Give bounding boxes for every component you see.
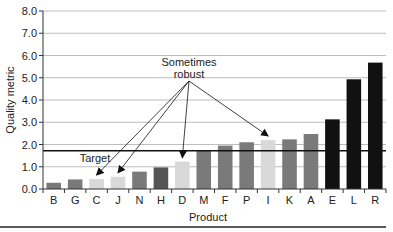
y-axis-label: Quality metric — [4, 66, 16, 134]
target-label: Target — [80, 152, 111, 164]
bar-M — [196, 151, 211, 189]
bar-J — [111, 177, 126, 189]
annotation-arrow-J — [118, 81, 189, 173]
annotation-line-2: robust — [174, 68, 205, 80]
x-tick-label: P — [243, 194, 250, 206]
bar-C — [89, 179, 104, 189]
y-tick-label: 8.0 — [22, 5, 37, 17]
bar-I — [261, 140, 276, 189]
x-tick-label: C — [93, 194, 101, 206]
x-tick-label: G — [71, 194, 80, 206]
y-tick-label: 2.0 — [22, 139, 37, 151]
annotation-arrow-D — [182, 81, 189, 158]
x-tick-label: L — [351, 194, 357, 206]
bar-E — [325, 119, 340, 189]
y-tick-label: 0.0 — [22, 183, 37, 195]
bar-K — [282, 139, 297, 189]
x-axis-label: Product — [189, 211, 227, 223]
bar-R — [368, 63, 383, 189]
bar-A — [304, 134, 319, 189]
x-tick-label: F — [222, 194, 229, 206]
bar-F — [218, 146, 233, 189]
y-tick-label: 1.0 — [22, 161, 37, 173]
y-tick-label: 5.0 — [22, 72, 37, 84]
x-tick-label: D — [178, 194, 186, 206]
bar-H — [154, 167, 169, 189]
y-tick-label: 6.0 — [22, 50, 37, 62]
x-tick-label: H — [157, 194, 165, 206]
bar-chart: Target 0.01.02.03.04.05.06.07.08.0BGCJNH… — [0, 0, 393, 232]
y-tick-label: 4.0 — [22, 94, 37, 106]
bar-G — [68, 179, 83, 189]
y-tick-label: 3.0 — [22, 116, 37, 128]
x-tick-label: R — [371, 194, 379, 206]
x-tick-label: N — [135, 194, 143, 206]
annotation-arrow-C — [97, 81, 189, 175]
x-tick-label: M — [199, 194, 208, 206]
y-tick-label: 7.0 — [22, 27, 37, 39]
annotation-arrow-I — [189, 81, 268, 136]
bars — [46, 63, 382, 189]
x-tick-label: B — [50, 194, 57, 206]
bar-D — [175, 162, 190, 189]
annotation-line-1: Sometimes — [161, 56, 217, 68]
bar-N — [132, 172, 147, 189]
bar-L — [347, 79, 362, 189]
bar-B — [46, 183, 61, 189]
x-tick-label: I — [267, 194, 270, 206]
x-tick-label: J — [115, 194, 121, 206]
x-tick-label: K — [286, 194, 294, 206]
bar-P — [239, 142, 254, 189]
x-tick-label: A — [307, 194, 315, 206]
x-tick-label: E — [329, 194, 336, 206]
